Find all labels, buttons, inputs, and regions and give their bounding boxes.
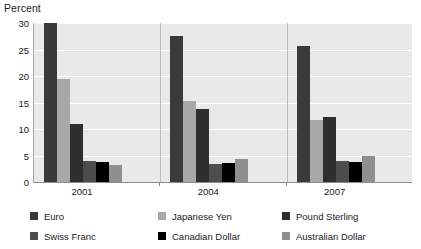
bar-group (44, 23, 122, 182)
legend-item: Canadian Dollar (158, 231, 282, 242)
bar (196, 109, 209, 182)
y-axis-tick-label: 0 (3, 177, 29, 188)
bar-groups (34, 23, 412, 182)
bar (170, 36, 183, 182)
bar (362, 156, 375, 183)
bar (209, 164, 222, 182)
legend-label: Japanese Yen (172, 211, 232, 222)
group-separator (160, 23, 161, 182)
x-axis-category-label: 2007 (324, 186, 345, 197)
legend-item: Euro (30, 211, 158, 222)
y-axis-tick-labels: 051015202530 (0, 0, 29, 249)
x-axis-tick (159, 182, 160, 186)
legend-swatch-icon (158, 232, 166, 240)
legend-label: Australian Dollar (296, 231, 366, 242)
x-axis-category-labels: 200120042007 (33, 186, 412, 204)
bar-group (297, 23, 375, 182)
group-separator (287, 23, 288, 182)
y-axis-tick-label: 10 (3, 124, 29, 135)
bar (183, 101, 196, 182)
bar (310, 120, 323, 182)
y-axis-tick-label: 5 (3, 150, 29, 161)
bar (83, 161, 96, 182)
legend: EuroJapanese YenPound SterlingSwiss Fran… (30, 206, 418, 246)
bar (70, 124, 83, 182)
bar (109, 165, 122, 182)
legend-label: Euro (44, 211, 64, 222)
x-axis-category-label: 2001 (71, 186, 92, 197)
bar-chart: Percent 051015202530 200120042007 EuroJa… (0, 0, 421, 249)
y-axis-tick-label: 20 (3, 71, 29, 82)
plot-area (33, 23, 412, 182)
bar (323, 117, 336, 182)
bar (336, 161, 349, 182)
legend-item: Swiss Franc (30, 231, 158, 242)
legend-swatch-icon (282, 212, 290, 220)
bar (44, 23, 57, 182)
legend-label: Pound Sterling (296, 211, 358, 222)
bar (235, 159, 248, 182)
legend-swatch-icon (30, 212, 38, 220)
bar-group (170, 23, 248, 182)
legend-swatch-icon (282, 232, 290, 240)
legend-item: Japanese Yen (158, 211, 282, 222)
y-axis-tick-label: 15 (3, 97, 29, 108)
x-axis-category-label: 2004 (198, 186, 219, 197)
legend-item: Australian Dollar (282, 231, 418, 242)
legend-swatch-icon (158, 212, 166, 220)
y-axis-tick-label: 25 (3, 44, 29, 55)
x-axis-tick (286, 182, 287, 186)
y-axis-tick-label: 30 (3, 18, 29, 29)
bar (96, 162, 109, 182)
bar (222, 163, 235, 182)
legend-label: Canadian Dollar (172, 231, 240, 242)
legend-item: Pound Sterling (282, 211, 418, 222)
legend-label: Swiss Franc (44, 231, 96, 242)
legend-swatch-icon (30, 232, 38, 240)
x-axis-line (33, 182, 412, 183)
bar (349, 162, 362, 182)
bar (57, 79, 70, 182)
bar (297, 46, 310, 182)
